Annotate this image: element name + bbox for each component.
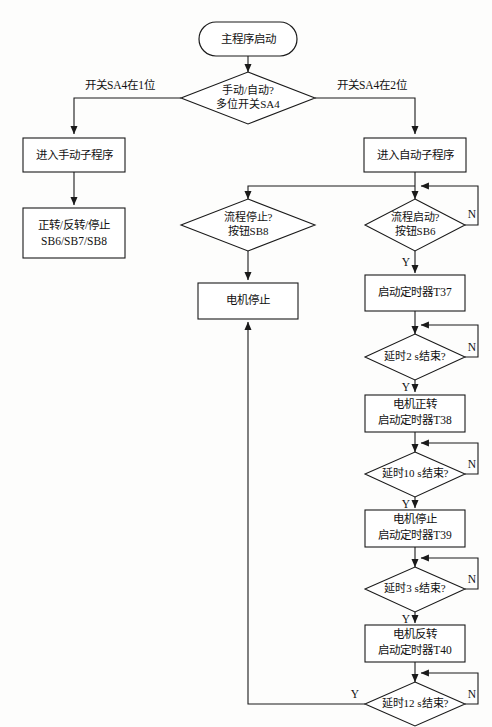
- node-start-decision: 流程启动? 按钮SB6: [365, 199, 465, 251]
- node-timer-t37: 启动定时器T37: [365, 275, 465, 311]
- edge-label-switch-pos1: 开关SA4在1位: [85, 78, 155, 91]
- node-manual-sub: 进入手动子程序: [23, 138, 125, 172]
- edge-label-delay10-y: Y: [402, 498, 411, 510]
- node-motor-rev-t40-line1: 电机反转: [393, 627, 438, 640]
- node-stop-decision-line2: 按钮SB8: [228, 224, 269, 237]
- node-motor-fwd-t38-line2: 启动定时器T38: [378, 413, 452, 426]
- edge-mode-to-auto: [315, 98, 415, 134]
- node-start: 主程序启动: [199, 22, 297, 56]
- node-motor-rev-t40-line2: 启动定时器T40: [378, 643, 452, 656]
- edge-label-start-decision-n: N: [468, 208, 477, 220]
- edge-label-delay2-y: Y: [402, 381, 411, 393]
- edge-label-delay3-n: N: [468, 573, 477, 585]
- node-delay12-label: 延时12 s结束?: [382, 697, 449, 709]
- node-start-label: 主程序启动: [221, 32, 276, 45]
- node-mode-decision: 手动/自动? 多位开关SA4: [181, 72, 315, 124]
- flowchart-canvas: 主程序启动 手动/自动? 多位开关SA4 开关SA4在1位 开关SA4在2位 进…: [0, 0, 492, 727]
- node-motor-stop-t39: 电机停止 启动定时器T39: [365, 510, 465, 547]
- node-start-decision-line1: 流程启动?: [391, 210, 440, 223]
- node-start-decision-line2: 按钮SB6: [395, 224, 436, 237]
- node-motor-stop-box: 电机停止: [198, 283, 298, 319]
- node-delay10-label: 延时10 s结束?: [382, 467, 449, 479]
- node-delay2-label: 延时2 s结束?: [384, 350, 446, 362]
- node-manual-ops-line1: 正转/反转/停止: [38, 218, 110, 231]
- node-delay3-label: 延时3 s结束?: [384, 582, 446, 594]
- edge-label-delay3-y: Y: [402, 613, 411, 625]
- node-motor-stop-box-label: 电机停止: [226, 293, 270, 306]
- node-mode-decision-line2: 多位开关SA4: [216, 97, 280, 110]
- edge-mode-to-manual: [74, 98, 181, 134]
- node-auto-sub-label: 进入自动子程序: [377, 148, 454, 161]
- node-timer-t37-label: 启动定时器T37: [378, 285, 452, 298]
- node-manual-ops-line2: SB6/SB7/SB8: [41, 235, 107, 247]
- node-delay2: 延时2 s结束?: [365, 334, 465, 380]
- node-delay3: 延时3 s结束?: [365, 567, 465, 612]
- edge-label-start-decision-y: Y: [402, 256, 411, 268]
- node-motor-rev-t40: 电机反转 启动定时器T40: [365, 625, 465, 662]
- node-manual-sub-label: 进入手动子程序: [36, 148, 113, 161]
- edge-label-switch-pos2: 开关SA4在2位: [337, 78, 407, 91]
- node-stop-decision: 流程停止? 按钮SB8: [181, 199, 315, 251]
- edge-delay12-y-return: [248, 322, 365, 704]
- edge-label-delay12-y: Y: [351, 688, 360, 700]
- node-motor-stop-t39-line2: 启动定时器T39: [378, 528, 452, 541]
- node-motor-fwd-t38-line1: 电机正转: [393, 397, 438, 410]
- node-stop-decision-line1: 流程停止?: [224, 210, 273, 223]
- edge-label-delay12-n: N: [468, 688, 477, 700]
- node-motor-fwd-t38: 电机正转 启动定时器T38: [365, 395, 465, 432]
- edge-label-delay2-n: N: [468, 341, 477, 353]
- node-mode-decision-line1: 手动/自动?: [222, 83, 274, 96]
- flowchart-diagram: 主程序启动 手动/自动? 多位开关SA4 开关SA4在1位 开关SA4在2位 进…: [0, 0, 492, 727]
- edge-auto-to-stop-decision: [248, 186, 415, 199]
- edge-label-delay10-n: N: [468, 458, 477, 470]
- node-delay12: 延时12 s结束?: [365, 682, 465, 726]
- node-auto-sub: 进入自动子程序: [364, 138, 466, 172]
- node-motor-stop-t39-line1: 电机停止: [393, 512, 437, 525]
- node-delay10: 延时10 s结束?: [365, 452, 465, 497]
- node-manual-ops: 正转/反转/停止 SB6/SB7/SB8: [23, 208, 125, 258]
